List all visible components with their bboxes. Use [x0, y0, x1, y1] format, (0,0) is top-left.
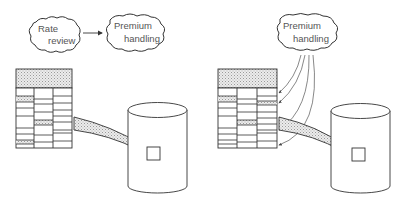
premium-handling-cloud-left: Premium handling	[106, 14, 164, 51]
diagram-canvas: Rate review Premium handling	[0, 0, 405, 203]
premium-line2-right: handling	[293, 33, 329, 44]
database-cylinder-left	[128, 103, 187, 194]
premium-line1-right: Premium	[283, 20, 321, 31]
right-panel: Premium handling	[218, 14, 390, 194]
premium-line2-left: handling	[124, 33, 160, 44]
rate-review-line2: review	[48, 35, 76, 46]
record-table-left	[16, 69, 72, 148]
record-table-right	[218, 69, 277, 148]
rate-review-line1: Rate	[38, 23, 58, 34]
database-cylinder-right	[331, 104, 390, 194]
record-square	[147, 147, 160, 160]
left-panel: Rate review Premium handling	[16, 14, 187, 193]
premium-handling-cloud-right: Premium handling	[277, 14, 337, 51]
premium-line1-left: Premium	[114, 20, 152, 31]
record-square-right	[352, 148, 365, 161]
rate-review-cloud: Rate review	[29, 17, 80, 53]
